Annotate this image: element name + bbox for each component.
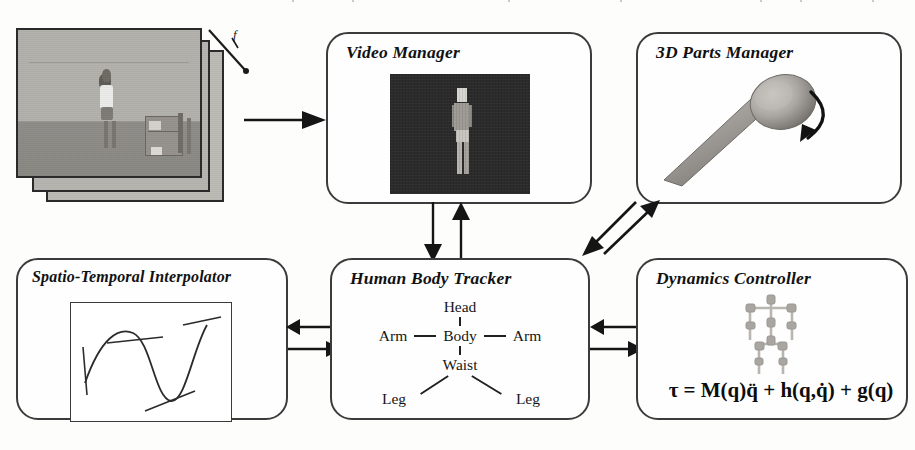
arrow-tracker-to-parts-manager	[588, 196, 664, 268]
module-human-body-tracker[interactable]: Human Body Tracker Head Arm Body Arm Wai…	[330, 258, 590, 420]
module-title-human-body-tracker: Human Body Tracker	[350, 268, 511, 289]
arrow-parts-manager-to-tracker	[578, 188, 654, 260]
module-title-3d-parts-manager: 3D Parts Manager	[656, 42, 793, 63]
tree-node-leg-left: Leg	[382, 390, 406, 408]
frame-axis-label: f	[233, 27, 237, 43]
tree-links-waist-legs	[332, 374, 588, 408]
tree-node-arm-left: Arm	[379, 327, 407, 345]
module-title-spatio-temporal-interpolator: Spatio-Temporal Interpolator	[32, 268, 231, 286]
dynamics-equation: τ = M(q)q̈ + h(q,q̇) + g(q)	[652, 378, 910, 403]
tree-link-body-waist	[459, 346, 461, 355]
arrow-video-manager-to-tracker	[420, 200, 446, 264]
video-frame-front	[16, 28, 202, 178]
tree-link-arm-left-body	[414, 335, 436, 337]
body-part-tree: Head Arm Body Arm Waist Leg Leg	[332, 298, 588, 418]
module-video-manager[interactable]: Video Manager	[326, 32, 592, 204]
3d-limb-render	[648, 68, 898, 193]
module-dynamics-controller[interactable]: Dynamics Controller	[636, 258, 908, 420]
module-title-dynamics-controller: Dynamics Controller	[656, 268, 811, 289]
tree-row-waist: Waist	[332, 356, 588, 374]
module-spatio-temporal-interpolator[interactable]: Spatio-Temporal Interpolator	[16, 258, 288, 420]
tree-row-legs: Leg Leg	[332, 374, 588, 408]
tree-node-leg-right: Leg	[516, 390, 540, 408]
clipped-text-remnant	[0, 0, 915, 10]
tree-row-body: Arm Body Arm	[332, 327, 588, 345]
arrow-tracker-to-video-manager	[448, 200, 474, 264]
tree-link-body-arm-right	[484, 335, 506, 337]
diagram-canvas: f Video Manager 3D Parts Manager	[0, 0, 915, 450]
tree-link-head-body	[459, 317, 461, 326]
tree-node-waist: Waist	[443, 356, 478, 374]
segmented-silhouette-image	[390, 74, 530, 194]
articulated-skeleton-figure	[726, 292, 816, 378]
module-title-video-manager: Video Manager	[346, 42, 460, 63]
video-frame-stack	[16, 28, 226, 208]
frame-axis-marker	[205, 26, 259, 80]
tree-node-arm-right: Arm	[513, 327, 541, 345]
spline-plot	[70, 302, 232, 422]
tree-node-body: Body	[443, 327, 477, 345]
tree-row-head: Head	[332, 298, 588, 316]
arrow-frames-to-video-manager	[240, 100, 330, 140]
tree-node-head: Head	[444, 298, 477, 316]
module-3d-parts-manager[interactable]: 3D Parts Manager	[636, 32, 902, 204]
